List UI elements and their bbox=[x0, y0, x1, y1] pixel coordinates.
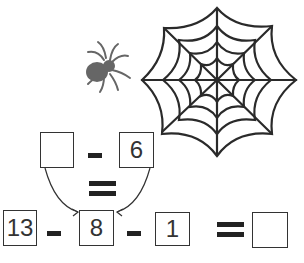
middle-equals-sign bbox=[89, 181, 116, 201]
bottom-minus-1 bbox=[47, 231, 61, 236]
top-value-box: 6 bbox=[119, 132, 154, 168]
spider-web-icon bbox=[142, 8, 296, 156]
top-minus-sign bbox=[88, 153, 102, 158]
bottom-b-box: 8 bbox=[79, 210, 114, 246]
bottom-equals-sign bbox=[217, 222, 244, 242]
result-blank-box[interactable] bbox=[252, 212, 288, 248]
spider-icon bbox=[86, 42, 130, 92]
bottom-minus-2 bbox=[127, 231, 141, 236]
top-blank-box[interactable] bbox=[40, 132, 74, 168]
bottom-a-box: 13 bbox=[3, 210, 37, 246]
bottom-c-box: 1 bbox=[155, 212, 190, 246]
